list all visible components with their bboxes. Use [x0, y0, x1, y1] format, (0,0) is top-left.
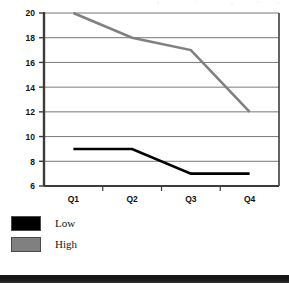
chart-legend: Low High: [11, 213, 161, 255]
chart-svg: 68101214161820Q1Q2Q3Q4: [0, 0, 289, 210]
legend-label-low: Low: [55, 218, 75, 229]
legend-label-high: High: [55, 239, 77, 250]
x-tick-label: Q4: [244, 194, 256, 204]
y-tick-label: 18: [26, 33, 36, 43]
y-tick-label: 6: [30, 181, 35, 191]
y-tick-label: 20: [26, 8, 36, 18]
bottom-scan-band: [0, 271, 289, 283]
y-tick-label: 12: [26, 107, 36, 117]
y-tick-label: 16: [26, 58, 36, 68]
y-tick-label: 14: [26, 83, 36, 93]
legend-item-low: Low: [11, 213, 161, 234]
legend-swatch-low: [11, 216, 41, 231]
x-tick-label: Q2: [126, 194, 138, 204]
x-tick-label: Q3: [185, 194, 197, 204]
legend-swatch-high: [11, 237, 41, 252]
plot-area: 68101214161820Q1Q2Q3Q4: [0, 0, 289, 210]
legend-item-high: High: [11, 234, 161, 255]
y-tick-label: 8: [30, 157, 35, 167]
x-tick-label: Q1: [68, 194, 80, 204]
y-tick-label: 10: [26, 132, 36, 142]
line-chart-figure: 68101214161820Q1Q2Q3Q4 Low High: [0, 0, 289, 283]
